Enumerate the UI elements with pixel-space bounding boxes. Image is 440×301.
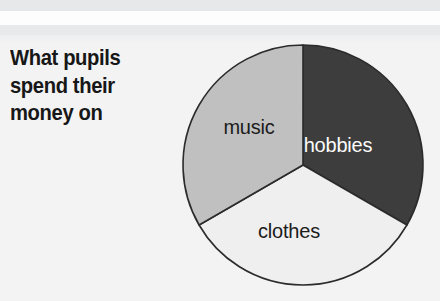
- pie-slices: [183, 45, 423, 285]
- pie-slice-label-music: music: [223, 116, 274, 138]
- scanned-page: What pupils spend their money on hobbies…: [0, 0, 440, 301]
- pie-chart-svg: hobbiesclothesmusic: [0, 0, 440, 301]
- pie-slice-label-hobbies: hobbies: [304, 134, 373, 156]
- pie-slice-label-clothes: clothes: [258, 220, 320, 242]
- pie-chart: hobbiesclothesmusic: [0, 0, 440, 301]
